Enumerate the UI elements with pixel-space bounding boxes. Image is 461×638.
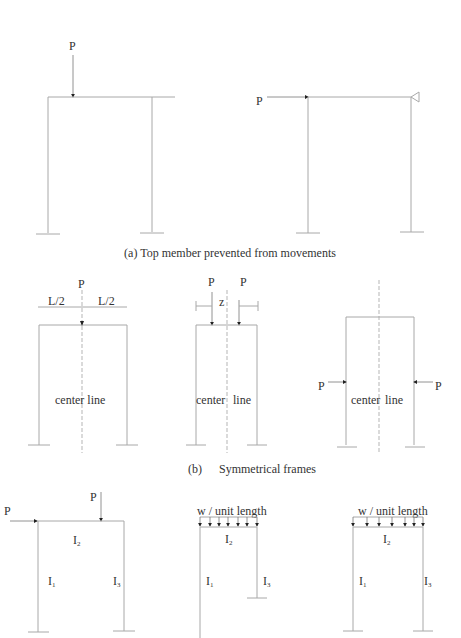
dimension-left: L/2 <box>48 294 65 308</box>
frame-a-right: P <box>256 92 424 233</box>
left-column-inertia: I1 <box>359 574 367 589</box>
roller-support-icon <box>411 92 419 102</box>
beam-inertia: I2 <box>225 532 233 547</box>
distributed-load-arrows <box>200 517 257 526</box>
right-column-inertia: I3 <box>424 574 432 589</box>
caption-b-letter: (b) <box>188 462 202 476</box>
frame-b3: P P center line <box>318 280 442 453</box>
left-column-inertia: I1 <box>48 574 56 589</box>
centerline-label-left: center <box>351 393 380 407</box>
load-label: P <box>256 94 263 108</box>
centerline-label-left: center <box>196 393 225 407</box>
frame-c3: w / unit length I2 I1 I3 <box>343 504 433 631</box>
right-column-inertia: I3 <box>263 574 271 589</box>
centerline-label: center line <box>55 393 105 407</box>
right-column-inertia: I3 <box>113 574 121 589</box>
left-column-inertia: I1 <box>206 574 214 589</box>
vertical-load-label: P <box>90 490 97 504</box>
frame-c2: w / unit length I2 I1 I3 <box>197 504 271 638</box>
distributed-load-arrows <box>353 517 423 526</box>
distributed-load-label: w / unit length <box>358 504 428 518</box>
beam-inertia: I2 <box>383 532 391 547</box>
horizontal-load-label: P <box>4 504 11 518</box>
load-label: P <box>69 39 76 53</box>
frame-b1: P L/2 L/2 center line <box>28 277 138 453</box>
load-label-left: P <box>318 379 325 393</box>
dimension-z: z <box>219 295 224 309</box>
caption-a: (a) Top member prevented from movements <box>124 246 336 260</box>
load-label-left: P <box>208 275 215 289</box>
frame-c1: P P I2 I1 I3 <box>4 490 135 632</box>
frame-b2: P P z center line <box>186 275 267 453</box>
frame-a-left: P <box>36 39 175 234</box>
caption-b-text: Symmetrical frames <box>219 462 316 476</box>
frames-diagram: P P (a) Top member prevented from moveme… <box>0 0 461 638</box>
dimension-right: L/2 <box>98 294 115 308</box>
beam-inertia: I2 <box>73 533 81 548</box>
distributed-load-label: w / unit length <box>197 504 267 518</box>
load-label: P <box>78 277 85 291</box>
centerline-label-right: line <box>233 393 251 407</box>
centerline-label-right: line <box>385 393 403 407</box>
load-label-right: P <box>435 379 442 393</box>
load-label-right: P <box>240 275 247 289</box>
